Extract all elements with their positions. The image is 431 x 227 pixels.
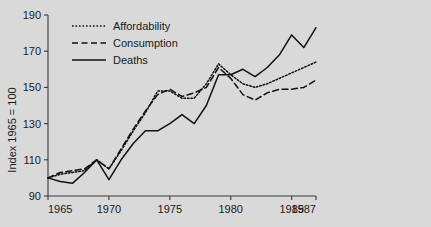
series-line-consumption — [48, 67, 316, 177]
chart-legend: AffordabilityConsumptionDeaths — [72, 20, 178, 66]
x-tick-label: 1965 — [48, 203, 72, 215]
y-axis-tick-labels: 90110130150170190 — [23, 9, 41, 202]
series-lines — [48, 28, 316, 184]
x-tick-label: 1970 — [97, 203, 121, 215]
chart-figure: 90110130150170190 1965197019751980198519… — [0, 0, 431, 227]
legend-label-affordability: Affordability — [113, 20, 171, 32]
y-axis-ticks — [44, 15, 48, 196]
series-line-deaths — [48, 28, 316, 184]
y-tick-label: 170 — [23, 45, 41, 57]
x-tick-label: 1975 — [158, 203, 182, 215]
y-tick-label: 110 — [23, 154, 41, 166]
y-tick-label: 190 — [23, 9, 41, 21]
x-tick-label: 1987 — [292, 203, 316, 215]
line-chart: 90110130150170190 1965197019751980198519… — [0, 0, 431, 227]
legend-label-deaths: Deaths — [113, 54, 148, 66]
y-tick-label: 130 — [23, 118, 41, 130]
x-axis-tick-labels: 196519701975198019851987 — [48, 203, 316, 215]
y-tick-label: 150 — [23, 81, 41, 93]
x-axis-ticks — [48, 196, 316, 200]
x-tick-label: 1980 — [218, 203, 242, 215]
series-line-affordability — [48, 62, 316, 178]
y-tick-label: 90 — [29, 190, 41, 202]
y-axis-title: Index 1965 = 100 — [6, 87, 18, 172]
legend-label-consumption: Consumption — [113, 37, 178, 49]
